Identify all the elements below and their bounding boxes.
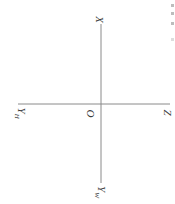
edge-artifact bbox=[171, 12, 174, 15]
axes-svg bbox=[0, 0, 175, 204]
edge-artifact bbox=[171, 4, 174, 7]
label-z: Z bbox=[162, 109, 173, 115]
label-y-h: YH bbox=[13, 108, 27, 119]
edge-artifact bbox=[171, 22, 174, 25]
label-origin: O bbox=[85, 110, 96, 118]
label-x: X bbox=[94, 16, 105, 23]
label-y-w: YW bbox=[93, 186, 107, 198]
projection-axes-diagram: X YH O Z YW bbox=[0, 0, 175, 204]
edge-artifact bbox=[171, 38, 174, 41]
